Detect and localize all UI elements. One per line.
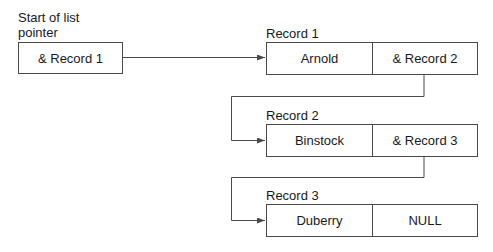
record-1-next-pointer: & Record 2 (373, 43, 477, 74)
start-pointer-label-line2: pointer (18, 25, 58, 40)
record-2-data: Binstock (267, 125, 373, 156)
start-pointer-value: & Record 1 (38, 51, 103, 66)
record-1-label: Record 1 (266, 26, 319, 41)
start-pointer-box: & Record 1 (18, 42, 123, 74)
record-3-label: Record 3 (266, 188, 319, 203)
record-3-node: Duberry NULL (266, 204, 478, 237)
record-1-node: Arnold & Record 2 (266, 42, 478, 75)
record-2-node: Binstock & Record 3 (266, 124, 478, 157)
start-pointer-label-line1: Start of list (18, 10, 79, 25)
record-2-label: Record 2 (266, 108, 319, 123)
record-1-data: Arnold (267, 43, 373, 74)
record-3-next-pointer: NULL (373, 205, 477, 236)
record-2-next-pointer: & Record 3 (373, 125, 477, 156)
record-3-data: Duberry (267, 205, 373, 236)
